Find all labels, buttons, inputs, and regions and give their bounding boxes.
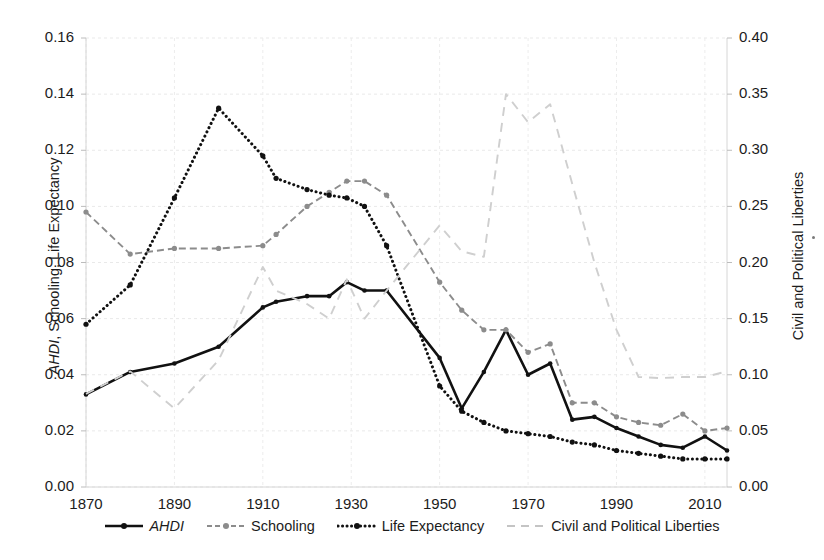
legend-item-label: Life Expectancy (382, 518, 484, 534)
legend-item[interactable]: Civil and Political Liberties (506, 518, 719, 534)
y-axis-left-tick-label: 0.00 (16, 477, 74, 494)
chart-figure: 0.000.020.040.060.080.100.120.140.16 0.0… (0, 0, 824, 560)
y-axis-left-title-ahdi: AHDI (46, 340, 62, 375)
x-axis-tick-label: 1950 (405, 495, 475, 512)
legend-item[interactable]: Schooling (206, 518, 315, 534)
stray-dot-artifact (812, 236, 815, 239)
y-axis-right-tick-label: 0.10 (739, 365, 797, 382)
y-axis-left-tick-label: 0.10 (16, 196, 74, 213)
legend-item-label: Civil and Political Liberties (551, 518, 719, 534)
y-axis-right-tick-label: 0.35 (739, 84, 797, 101)
data-series-layer (83, 94, 729, 461)
chart-plot-area (0, 0, 824, 560)
chart-legend: AHDISchoolingLife ExpectancyCivil and Po… (0, 518, 824, 534)
y-axis-right-tick-label: 0.15 (739, 309, 797, 326)
series-ahdi (84, 280, 730, 453)
x-axis-tick-label: 2010 (670, 495, 740, 512)
y-axis-right-tick-label: 0.40 (739, 28, 797, 45)
legend-swatch-icon (506, 519, 546, 533)
legend-swatch-icon (104, 519, 144, 533)
legend-swatch-icon (206, 519, 246, 533)
legend-item-label: Schooling (251, 518, 315, 534)
y-axis-left-title-rest: , Schooling, Life Expectancy (46, 158, 62, 340)
x-axis-tick-label: 1890 (139, 495, 209, 512)
y-axis-right-tick-label: 0.05 (739, 421, 797, 438)
y-axis-left-tick-label: 0.16 (16, 28, 74, 45)
legend-item[interactable]: Life Expectancy (337, 518, 484, 534)
y-axis-left-tick-label: 0.06 (16, 309, 74, 326)
x-axis-tick-label: 1990 (581, 495, 651, 512)
y-axis-right-tick-label: 0.20 (739, 253, 797, 270)
gridlines (86, 38, 727, 487)
y-axis-left-tick-label: 0.04 (16, 365, 74, 382)
y-axis-right-tick-label: 0.00 (739, 477, 797, 494)
y-axis-right-tick-label: 0.25 (739, 196, 797, 213)
series-life-expectancy (83, 106, 729, 462)
legend-swatch-icon (337, 519, 377, 533)
y-axis-left-tick-label: 0.02 (16, 421, 74, 438)
legend-item[interactable]: AHDI (104, 518, 184, 534)
x-axis-tick-label: 1910 (228, 495, 298, 512)
x-axis-tick-label: 1870 (51, 495, 121, 512)
series-schooling (83, 179, 729, 434)
x-axis-tick-label: 1970 (493, 495, 563, 512)
y-axis-right-tick-label: 0.30 (739, 140, 797, 157)
y-axis-left-tick-label: 0.08 (16, 253, 74, 270)
legend-item-label: AHDI (149, 518, 184, 534)
y-axis-left-tick-label: 0.14 (16, 84, 74, 101)
y-axis-left-tick-label: 0.12 (16, 140, 74, 157)
y-axis-right-title: Civil and Political Liberties (790, 106, 806, 406)
y-axis-left-title: AHDI, Schooling, Life Expectancy (46, 116, 62, 416)
x-axis-tick-label: 1930 (316, 495, 386, 512)
